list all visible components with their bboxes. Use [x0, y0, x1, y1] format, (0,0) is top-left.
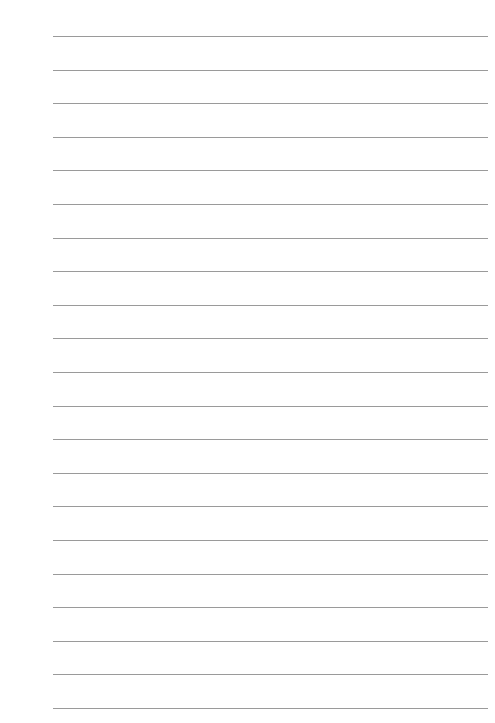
ruled-line	[53, 137, 488, 138]
ruled-line	[53, 506, 488, 507]
ruled-line	[53, 406, 488, 407]
ruled-line	[53, 473, 488, 474]
ruled-line	[53, 574, 488, 575]
ruled-line	[53, 103, 488, 104]
ruled-line	[53, 338, 488, 339]
ruled-line	[53, 305, 488, 306]
ruled-line	[53, 204, 488, 205]
ruled-line	[53, 70, 488, 71]
ruled-line	[53, 641, 488, 642]
ruled-line	[53, 607, 488, 608]
ruled-line	[53, 372, 488, 373]
ruled-line	[53, 238, 488, 239]
ruled-line	[53, 674, 488, 675]
lined-paper-page	[0, 0, 495, 723]
ruled-line	[53, 36, 488, 37]
ruled-line	[53, 439, 488, 440]
ruled-line	[53, 540, 488, 541]
ruled-line	[53, 708, 488, 709]
ruled-line	[53, 271, 488, 272]
ruled-line	[53, 170, 488, 171]
